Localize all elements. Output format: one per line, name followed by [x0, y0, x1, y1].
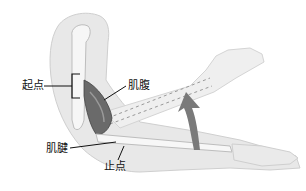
- insertion-label: 止点: [104, 161, 126, 172]
- origin-label: 起点: [22, 80, 44, 91]
- elbow-flexion-diagram: [0, 0, 306, 191]
- muscle-belly-label: 肌腹: [128, 80, 150, 91]
- tendon-label: 肌腱: [46, 143, 68, 154]
